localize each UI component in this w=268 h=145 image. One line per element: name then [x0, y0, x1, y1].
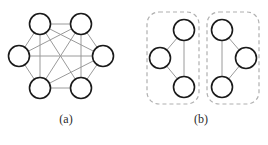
panel-a-node[interactable] [30, 78, 51, 99]
panel-b-caption: (b) [181, 112, 221, 126]
panel-a-node[interactable] [93, 46, 114, 67]
panel-b-edge-group [160, 30, 246, 87]
panel-b-node-group [150, 20, 257, 98]
cluster-left-node[interactable] [150, 48, 171, 69]
panel-a-node[interactable] [71, 78, 92, 99]
figure-container: (a) (b) [0, 0, 268, 145]
panel-a-caption: (a) [46, 112, 86, 126]
panel-a-node[interactable] [71, 14, 92, 35]
cluster-right-node[interactable] [236, 48, 257, 69]
panel-a-edge-group [19, 24, 103, 88]
figure-canvas [0, 0, 268, 145]
cluster-right-node[interactable] [212, 20, 233, 41]
cluster-left-node[interactable] [174, 20, 195, 41]
cluster-right-node[interactable] [212, 77, 233, 98]
cluster-left-node[interactable] [174, 77, 195, 98]
panel-a-node[interactable] [30, 14, 51, 35]
panel-a-node[interactable] [9, 46, 30, 67]
